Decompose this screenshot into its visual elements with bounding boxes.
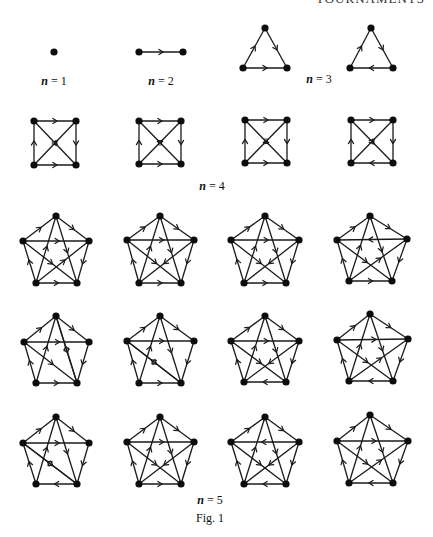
directed-edge xyxy=(231,417,265,442)
vertex-dot xyxy=(32,379,39,386)
vertex-dot xyxy=(73,279,80,286)
vertex-dot xyxy=(261,413,268,420)
vertex-dot xyxy=(135,379,142,386)
tournament-graph xyxy=(123,212,197,286)
vertex-dot xyxy=(135,279,142,286)
directed-edge xyxy=(393,339,408,381)
vertex-dot xyxy=(135,117,142,124)
vertex-dot xyxy=(240,378,247,385)
vertex-dot xyxy=(345,277,352,284)
directed-edge xyxy=(337,441,349,483)
directed-edge xyxy=(337,340,349,381)
directed-edge xyxy=(56,216,89,241)
vertex-dot xyxy=(227,337,234,344)
vertex-dot xyxy=(347,116,354,123)
directed-edge xyxy=(56,417,89,443)
vertex-dot xyxy=(30,117,37,124)
directed-edge xyxy=(286,442,299,484)
directed-edge xyxy=(77,342,89,383)
vertex-dot xyxy=(241,116,248,123)
vertex-dot xyxy=(282,279,289,286)
directed-edge xyxy=(349,415,370,483)
vertex-dot xyxy=(366,212,373,219)
directed-edge xyxy=(337,415,370,441)
directed-edge xyxy=(370,415,408,441)
directed-edge xyxy=(36,417,56,484)
vertex-dot xyxy=(227,438,234,445)
vertex-dot xyxy=(177,160,184,167)
directed-edge xyxy=(127,417,160,442)
directed-edge xyxy=(127,216,160,240)
directed-edge xyxy=(36,216,56,283)
directed-edge xyxy=(244,316,265,382)
directed-edge xyxy=(160,417,181,484)
tournament-graph xyxy=(20,312,92,386)
directed-edge xyxy=(160,216,194,240)
directed-edge xyxy=(286,240,299,283)
directed-edge xyxy=(337,314,370,340)
tournament-graph xyxy=(241,116,290,166)
vertex-dot xyxy=(19,237,26,244)
directed-edge xyxy=(139,316,160,383)
directed-edge xyxy=(127,442,139,484)
vertex-dot xyxy=(239,64,246,71)
directed-edge xyxy=(181,341,194,383)
n-label-n1: n = 1 xyxy=(41,74,66,89)
vertex-dot xyxy=(177,117,184,124)
directed-edge xyxy=(36,241,89,283)
vertex-dot xyxy=(389,377,396,384)
directed-edge xyxy=(265,316,286,382)
directed-edge xyxy=(23,241,36,283)
vertex-dot xyxy=(261,212,268,219)
vertex-dot xyxy=(366,411,373,418)
vertex-dot xyxy=(73,480,80,487)
vertex-dot xyxy=(389,64,396,71)
n-label-n5: n = 5 xyxy=(197,493,222,508)
directed-edge xyxy=(24,342,36,383)
tournament-graph xyxy=(30,117,79,168)
directed-edge xyxy=(371,28,393,68)
vertex-dot xyxy=(177,279,184,286)
tournament-graph xyxy=(227,413,302,487)
directed-edge xyxy=(243,28,265,68)
figure-caption: Fig. 1 xyxy=(196,511,224,526)
directed-edge xyxy=(56,316,77,383)
directed-edge xyxy=(23,417,56,443)
vertex-dot xyxy=(367,24,374,31)
directed-edge xyxy=(127,240,139,283)
vertex-dot xyxy=(85,338,92,345)
directed-edge xyxy=(77,241,89,283)
directed-edge xyxy=(23,443,36,484)
vertex-dot xyxy=(295,236,302,243)
directed-edge xyxy=(337,216,370,240)
directed-edge xyxy=(349,216,370,281)
tournament-graph xyxy=(19,212,92,286)
tournament-graph xyxy=(333,310,411,384)
vertex-dot xyxy=(283,159,290,166)
directed-edge xyxy=(265,417,286,484)
directed-edge xyxy=(139,216,160,283)
vertex-dot xyxy=(241,159,248,166)
directed-edge xyxy=(337,239,407,240)
directed-edge xyxy=(56,216,77,283)
vertex-dot xyxy=(85,439,92,446)
directed-edge xyxy=(337,339,408,340)
tournament-graph xyxy=(346,24,396,71)
vertex-dot xyxy=(177,379,184,386)
vertex-dot xyxy=(295,438,302,445)
vertex-dot xyxy=(389,116,396,123)
directed-edge xyxy=(337,240,349,281)
vertex-dot xyxy=(52,312,59,319)
vertex-dot xyxy=(295,337,302,344)
vertex-dot xyxy=(19,439,26,446)
vertex-dot xyxy=(190,337,197,344)
tournament-graph xyxy=(347,116,396,166)
vertex-dot xyxy=(282,378,289,385)
vertex-dot xyxy=(156,212,163,219)
tournament-graph xyxy=(227,212,302,286)
directed-edge xyxy=(350,28,371,68)
directed-edge xyxy=(160,417,194,442)
vertex-dot xyxy=(30,161,37,168)
vertex-dot xyxy=(240,480,247,487)
directed-edge xyxy=(231,216,265,240)
